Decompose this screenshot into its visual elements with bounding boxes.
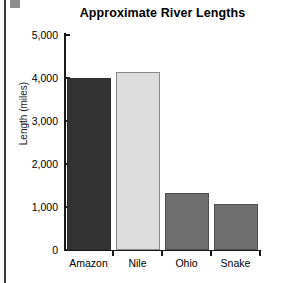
- y-axis-tick: [64, 34, 70, 36]
- y-axis-line: [64, 33, 66, 251]
- x-axis-tick: [112, 250, 114, 256]
- bar-snake: [214, 204, 258, 250]
- chart-figure: Approximate River Lengths Length (miles)…: [0, 0, 293, 283]
- x-axis-label-amazon: Amazon: [64, 257, 113, 269]
- y-axis-tick-label-text: 1,000: [14, 201, 58, 213]
- y-axis-tick-label-text: 0: [14, 244, 58, 256]
- x-axis-tick: [161, 250, 163, 256]
- page-corner-mark: [10, 0, 20, 8]
- y-axis-tick-label: 0: [12, 244, 58, 256]
- x-axis-tick: [210, 250, 212, 256]
- y-axis-tick-label-text: 2,000: [14, 158, 58, 170]
- y-axis-tick-label: 2,000: [12, 158, 58, 170]
- y-axis-tick-label: 4,000: [12, 72, 58, 84]
- x-axis-tick: [259, 250, 261, 256]
- x-axis-label-ohio: Ohio: [162, 257, 211, 269]
- y-axis-tick-label-text: 4,000: [14, 72, 58, 84]
- y-axis-tick-label: 5,000: [12, 29, 58, 41]
- page-edge-rule: [4, 0, 6, 283]
- y-axis-title: Length (miles): [18, 72, 29, 156]
- y-axis-tick-label: 3,000: [12, 115, 58, 127]
- x-axis-label-snake: Snake: [211, 257, 260, 269]
- bar-nile: [116, 72, 160, 250]
- y-axis-tick-label: 1,000: [12, 201, 58, 213]
- bar-ohio: [165, 193, 209, 250]
- bar-amazon: [67, 78, 111, 250]
- y-axis-tick-label-text: 5,000: [14, 29, 58, 41]
- x-axis-label-nile: Nile: [113, 257, 162, 269]
- y-axis-tick-label-text: 3,000: [14, 115, 58, 127]
- chart-title: Approximate River Lengths: [40, 6, 285, 20]
